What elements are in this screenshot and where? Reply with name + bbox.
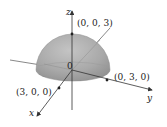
x-axis-label: x <box>29 109 34 118</box>
point-3-0-0 <box>58 87 61 90</box>
point-label-0-0-3: (0, 0, 3) <box>77 19 113 28</box>
point-label-3-0-0: (3, 0, 0) <box>16 88 52 97</box>
point-label-0-3-0: (0, 3, 0) <box>114 73 150 82</box>
point-0-0-3 <box>71 33 74 36</box>
z-axis-label: z <box>66 8 71 17</box>
hemisphere-figure: z (0, 0, 3) 0 (0, 3, 0) y (3, 0, 0) x <box>0 0 167 127</box>
origin-label: 0 <box>67 62 73 71</box>
point-0-3-0 <box>106 79 109 82</box>
y-axis-label: y <box>147 94 152 103</box>
